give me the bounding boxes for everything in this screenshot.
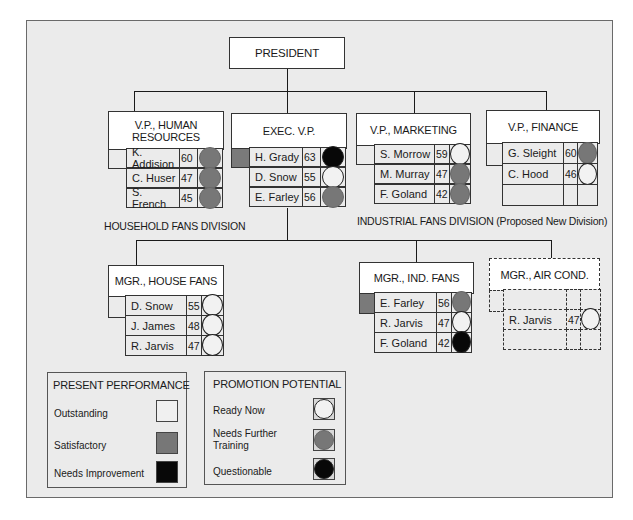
candidate-row: D. Snow 55 — [126, 296, 224, 316]
legend-label-questionable: Questionable — [213, 466, 272, 478]
potential-needs-training-icon — [450, 183, 470, 205]
connector-exec-down — [287, 208, 288, 240]
household-division-label: HOUSEHOLD FANS DIVISION — [104, 220, 245, 232]
industrial-division-label: INDUSTRIAL FANS DIVISION (Proposed New D… — [357, 215, 607, 227]
needs-further-training-icon — [314, 430, 334, 450]
satisfactory-swatch-icon — [156, 432, 178, 454]
connector-fin — [546, 91, 547, 110]
position-title: V.P., FINANCE — [486, 110, 600, 144]
potential-needs-training-icon — [322, 186, 344, 208]
position-title: EXEC. V.P. — [231, 113, 347, 149]
legend-present-performance: PRESENT PERFORMANCE Outstanding Satisfac… — [47, 372, 187, 488]
connector-house — [136, 240, 137, 266]
potential-ready-now-icon — [202, 314, 223, 336]
candidate-row: J. James 48 — [126, 316, 224, 336]
candidate-row: E. Farley 56 — [375, 293, 472, 313]
legend-label-needs-improvement: Needs Improvement — [54, 468, 144, 480]
performance-outstanding — [108, 296, 126, 318]
questionable-icon — [314, 459, 334, 479]
candidate-row: R. Jarvis 47 — [126, 336, 224, 356]
connector-mgr-bus — [136, 240, 551, 241]
ready-now-icon — [314, 399, 334, 419]
potential-ready-now-icon — [450, 143, 470, 165]
potential-needs-training-icon — [450, 163, 470, 185]
position-title: MGR., IND. FANS — [359, 262, 474, 294]
performance-satisfactory — [359, 293, 375, 314]
potential-ready-now-icon — [202, 334, 223, 356]
legend-promotion-potential: PROMOTION POTENTIAL Ready Now Needs Furt… — [204, 371, 346, 485]
connector-ind — [416, 240, 417, 262]
legend-label-ready-now: Ready Now — [213, 405, 265, 417]
legend-label-satisfactory: Satisfactory — [54, 440, 106, 452]
potential-ready-now-icon — [322, 166, 344, 188]
connector-hr — [134, 91, 135, 111]
connector-mkt — [414, 91, 415, 113]
legend-title: PRESENT PERFORMANCE — [53, 379, 190, 391]
legend-label-outstanding: Outstanding — [54, 408, 108, 420]
candidate-row: R. Jarvis 47 — [375, 313, 472, 333]
candidate-row: M. Murray 47 — [375, 165, 471, 185]
president-label: PRESIDENT — [255, 47, 319, 59]
performance-satisfactory — [231, 148, 250, 168]
candidate-row: F. Goland 42 — [375, 333, 472, 353]
candidate-row: D. Snow 55 — [250, 168, 346, 188]
candidate-row: K. Addision 60 — [127, 149, 223, 169]
ready-now-swatch — [313, 398, 335, 420]
candidate-row: H. Grady 63 — [250, 148, 346, 168]
candidate-row: F. Goland 42 — [375, 185, 471, 205]
needs-training-swatch — [313, 429, 335, 451]
legend-label-needs-further-training: Needs Further Training — [213, 428, 293, 452]
connector-vp-bus — [134, 91, 546, 92]
potential-needs-training-icon — [199, 167, 221, 189]
candidate-row: C. Hood 46 — [503, 164, 598, 184]
questionable-swatch — [313, 458, 335, 480]
president-box: PRESIDENT — [229, 37, 345, 69]
potential-ready-now-icon — [578, 163, 597, 185]
candidate-row: G. Sleight 60 — [503, 143, 598, 163]
position-title: V.P., MARKETING — [356, 113, 471, 146]
potential-ready-now-icon — [581, 308, 600, 330]
outstanding-swatch-icon — [156, 400, 178, 422]
candidate-row: E. Farley 56 — [250, 188, 346, 208]
connector-exec — [287, 91, 288, 113]
candidate-row-empty — [504, 330, 601, 350]
connector-air — [551, 240, 552, 258]
performance-outstanding — [108, 149, 127, 169]
position-title: MGR., AIR COND. — [489, 258, 600, 291]
position-title: V.P., HUMAN RESOURCES — [108, 111, 224, 150]
candidate-row-empty — [504, 290, 601, 310]
position-title: MGR., HOUSE FANS — [108, 265, 224, 297]
potential-needs-training-icon — [199, 187, 221, 209]
candidate-row: R. Jarvis 47 — [504, 310, 601, 330]
performance-outstanding — [356, 145, 375, 165]
performance-outstanding — [486, 143, 503, 166]
candidate-row-empty — [503, 185, 598, 205]
potential-questionable-icon — [452, 331, 471, 353]
performance-empty — [489, 290, 504, 312]
needs-improvement-swatch-icon — [156, 461, 178, 483]
legend-title: PROMOTION POTENTIAL — [213, 378, 341, 390]
potential-needs-training-icon — [199, 147, 221, 169]
potential-questionable-icon — [322, 146, 344, 168]
potential-needs-training-icon — [452, 291, 471, 313]
potential-ready-now-icon — [452, 311, 471, 333]
candidate-row: S. French 45 — [127, 189, 223, 209]
potential-needs-training-icon — [578, 142, 597, 164]
candidate-row: S. Morrow 59 — [375, 145, 471, 165]
potential-ready-now-icon — [202, 294, 223, 316]
connector-president — [287, 69, 288, 91]
